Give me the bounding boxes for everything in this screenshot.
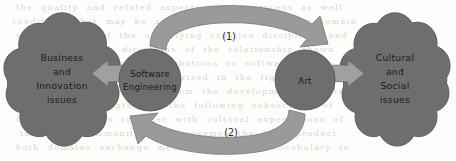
art-label: Art <box>298 76 312 86</box>
software-engineering-label-line-2: Engineering <box>123 82 177 92</box>
software-engineering-node: Software Engineering <box>119 49 181 111</box>
cultural-cloud-label-line-4: issues <box>380 94 410 105</box>
software-engineering-label-line-1: Software <box>130 69 169 79</box>
curved-arrow-2-label: (2) <box>224 127 238 138</box>
business-cloud-label-line-4: issues <box>47 94 77 105</box>
business-cloud-label-line-3: Innovation <box>36 80 88 91</box>
business-cloud-label-line-2: and <box>53 66 71 77</box>
art-node: Art <box>275 50 335 110</box>
cultural-cloud-label-line-1: Cultural <box>376 52 415 63</box>
cultural-cloud-label-line-3: Social <box>380 80 409 91</box>
software-engineering-circle <box>119 49 181 111</box>
diagram-canvas: the quality and related aspects of the p… <box>0 0 456 161</box>
curved-arrow-1-label: (1) <box>222 31 236 42</box>
business-cloud-label-line-1: Business <box>41 52 84 63</box>
curved-arrow-1-path <box>150 6 328 50</box>
diagram-svg: the quality and related aspects of the p… <box>0 0 456 161</box>
ghost-text-line: the quality and related aspects of the p… <box>8 3 351 12</box>
curved-arrow-1 <box>150 6 328 50</box>
cultural-cloud-label-line-2: and <box>386 66 404 77</box>
